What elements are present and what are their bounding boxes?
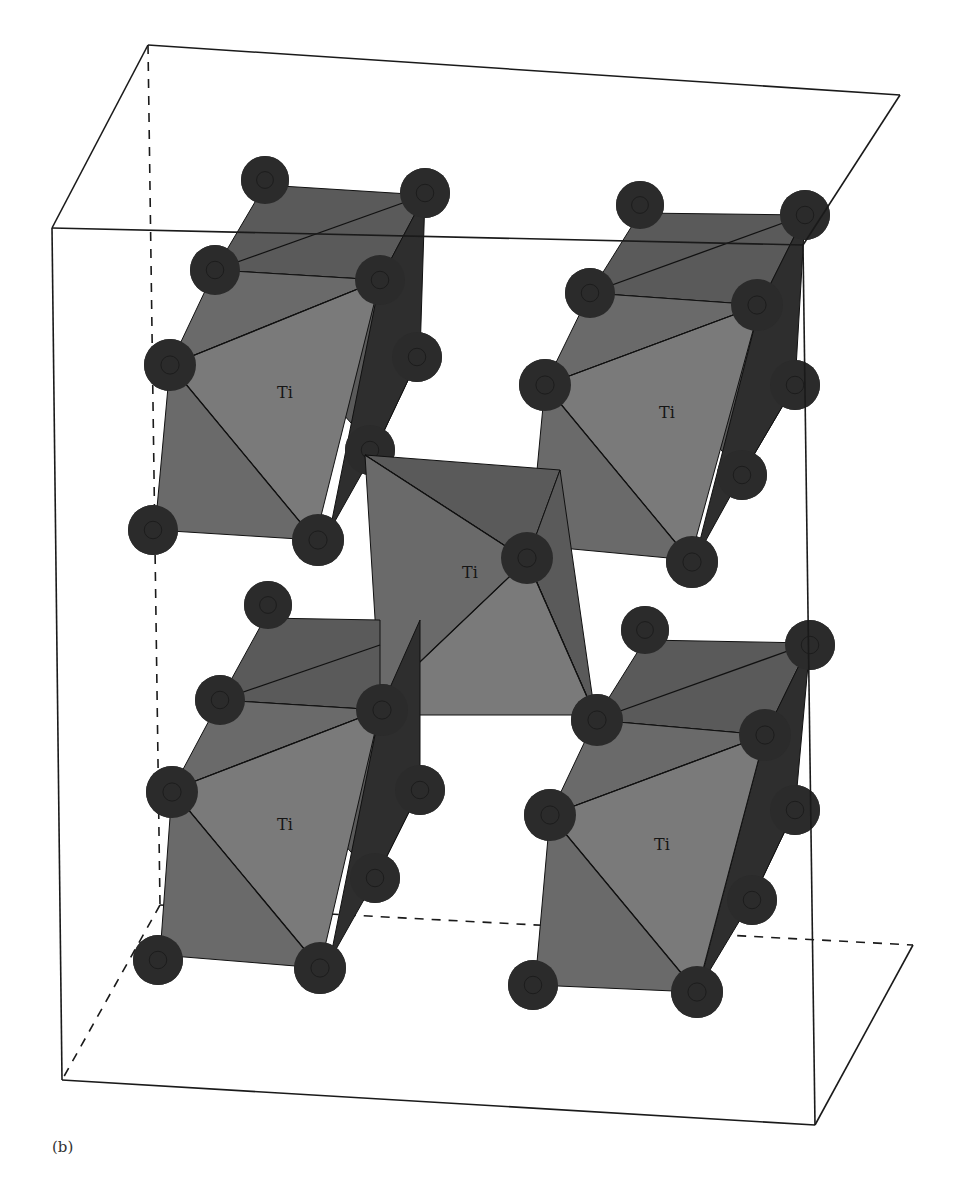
oxygen-atom — [292, 514, 344, 566]
unit-cell-edge — [52, 228, 62, 1080]
titanium-label: Ti — [659, 403, 675, 422]
oxygen-atom — [294, 942, 346, 994]
oxygen-atom — [508, 960, 558, 1010]
oxygen-atom — [519, 359, 571, 411]
oxygen-atom — [731, 279, 783, 331]
oxygen-atom — [244, 581, 292, 629]
titanium-label: Ti — [277, 383, 293, 402]
oxygen-atom — [392, 332, 442, 382]
oxygen-atom — [770, 785, 820, 835]
unit-cell-edge — [815, 945, 913, 1125]
oxygen-atom — [144, 339, 196, 391]
oxygen-atom — [190, 245, 240, 295]
figure-caption: (b) — [52, 1138, 73, 1156]
tio6-octahedra-group: TiTiTiTiTi — [128, 156, 835, 1018]
oxygen-atom — [146, 766, 198, 818]
unit-cell-hidden-edge — [62, 905, 160, 1080]
oxygen-atom — [128, 505, 178, 555]
oxygen-atom — [739, 709, 791, 761]
oxygen-atom — [501, 532, 553, 584]
oxygen-atom — [565, 268, 615, 318]
titanium-label: Ti — [277, 815, 293, 834]
unit-cell-edge — [62, 1080, 815, 1125]
oxygen-atom — [571, 694, 623, 746]
oxygen-atom — [727, 875, 777, 925]
oxygen-atom — [350, 853, 400, 903]
oxygen-atom — [133, 935, 183, 985]
oxygen-atom — [671, 966, 723, 1018]
oxygen-atom — [400, 168, 450, 218]
oxygen-atom — [195, 675, 245, 725]
oxygen-atom — [355, 255, 405, 305]
oxygen-atom — [717, 450, 767, 500]
oxygen-atom — [241, 156, 289, 204]
oxygen-atom — [616, 181, 664, 229]
unit-cell-edge — [803, 95, 900, 245]
unit-cell-edge — [52, 45, 148, 228]
oxygen-atom — [621, 606, 669, 654]
oxygen-atom — [356, 684, 408, 736]
titanium-label: Ti — [654, 835, 670, 854]
oxygen-atom — [785, 620, 835, 670]
unit-cell-edge — [148, 45, 900, 95]
oxygen-atom — [524, 789, 576, 841]
titanium-label: Ti — [462, 563, 478, 582]
oxygen-atom — [770, 360, 820, 410]
crystal-structure-figure: TiTiTiTiTi — [0, 0, 964, 1199]
oxygen-atom — [395, 765, 445, 815]
oxygen-atom — [666, 536, 718, 588]
